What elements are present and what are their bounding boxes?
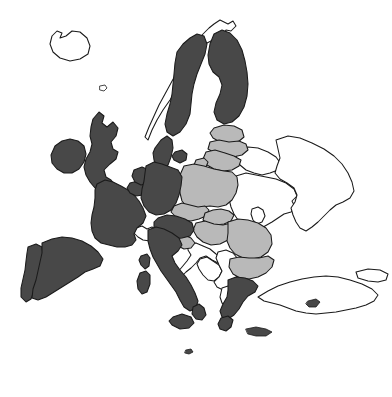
- region-sardinia[interactable]: [137, 271, 150, 294]
- europe-map-figure: [0, 0, 392, 397]
- europe-map-canvas: [0, 0, 392, 397]
